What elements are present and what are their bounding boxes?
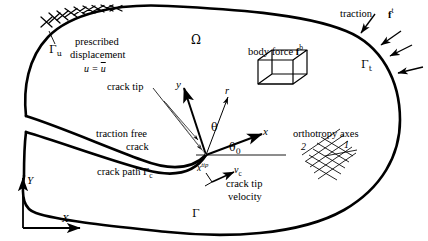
fracture-mechanics-diagram: Ω Γu prescribed displacement u = u body … <box>0 0 428 241</box>
crack-tip-velocity-line1: crack tip <box>226 178 262 190</box>
local-y-axis <box>184 88 206 155</box>
crack-tip-callout-label: crack tip <box>107 81 143 93</box>
traction-free-line1: traction free <box>96 128 147 140</box>
outer-boundary-label: Γ <box>192 207 200 220</box>
polar-radius-label: r <box>225 85 229 97</box>
prescribed-displacement-equation: u = u <box>84 63 106 74</box>
crack-tip-velocity-line2: velocity <box>228 191 262 203</box>
traction-label: traction <box>340 8 372 20</box>
traction-boundary-label: Γt <box>361 58 372 73</box>
orthotropy-axes-label: orthotropy axes <box>293 128 359 140</box>
body-force-label: body force fb <box>248 44 303 57</box>
orthotropy-axis-1-label: 1 <box>344 139 349 150</box>
traction-free-line2: crack <box>126 141 149 153</box>
construction-ray-arrow <box>164 101 198 140</box>
polar-angle-label: θ <box>211 121 218 134</box>
global-y-axis-label: Y <box>27 174 33 186</box>
orthotropy-axis-2-label: 2 <box>301 141 306 152</box>
construction-ray <box>166 103 206 155</box>
crack-curve <box>26 116 206 173</box>
domain-label: Ω <box>191 33 201 47</box>
traction-symbol: ft <box>388 7 394 20</box>
global-x-axis-label: X <box>62 212 69 224</box>
prescribed-displacement-line1: prescribed <box>75 36 119 48</box>
displacement-boundary-label: Γu <box>49 43 62 58</box>
crack-orientation-angle-label: θ0 <box>229 141 241 156</box>
local-x-axis-label: x <box>263 125 268 137</box>
crack-path-label: crack path Γc <box>97 166 153 181</box>
local-y-axis-label: y <box>176 78 181 90</box>
crack-tip-position-label: xtip <box>197 161 208 174</box>
crack-tip-velocity-symbol: vc <box>234 164 242 178</box>
prescribed-displacement-line2: displacement <box>70 49 125 61</box>
crack-tip-axes <box>153 88 286 155</box>
